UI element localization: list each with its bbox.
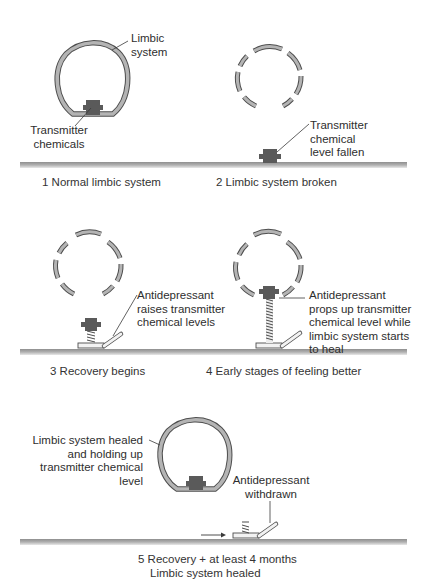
panel-1-normal xyxy=(57,41,128,126)
label-limbic-system-healed: Limbic system healed and holding up tran… xyxy=(22,434,143,488)
leader-line xyxy=(113,295,137,336)
caption-panel-1: 1 Normal limbic system xyxy=(42,176,161,190)
label-transmitter-level-fallen: Transmitter chemical level fallen xyxy=(310,119,368,160)
panel-3-recovery-begins xyxy=(56,232,137,348)
panel-2-broken xyxy=(237,47,309,163)
arrow-right-icon xyxy=(201,533,226,538)
label-antidepressant-raises: Antidepressant raises transmitter chemic… xyxy=(137,289,225,330)
transmitter-chemicals-block xyxy=(83,100,103,115)
ground-line-row1 xyxy=(20,162,407,168)
antidepressant-jack-withdrawn xyxy=(233,522,276,538)
label-antidepressant-props-up: Antidepressant props up transmitter chem… xyxy=(309,289,411,357)
caption-panel-5-line1: 5 Recovery + at least 4 months xyxy=(138,553,297,567)
antidepressant-jack xyxy=(256,286,300,348)
label-limbic-system: Limbic system xyxy=(131,32,167,59)
caption-panel-5-line2: Limbic system healed xyxy=(150,567,261,581)
panel-4-early-stages xyxy=(236,231,305,348)
leader-line xyxy=(277,124,309,152)
ground-line-row3 xyxy=(20,539,407,545)
leader-line xyxy=(149,440,160,445)
caption-panel-4: 4 Early stages of feeling better xyxy=(206,365,361,379)
limbic-ring-broken xyxy=(236,231,302,295)
transmitter-chemicals-block xyxy=(186,476,206,490)
limbic-ring-broken xyxy=(56,232,122,294)
label-antidepressant-withdrawn: Antidepressant withdrawn xyxy=(230,474,312,501)
caption-panel-3: 3 Recovery begins xyxy=(50,365,145,379)
leader-line xyxy=(112,41,128,50)
limbic-ring-broken xyxy=(237,47,301,106)
caption-panel-2: 2 Limbic system broken xyxy=(216,176,337,190)
label-transmitter-chemicals: Transmitter chemicals xyxy=(22,124,96,151)
